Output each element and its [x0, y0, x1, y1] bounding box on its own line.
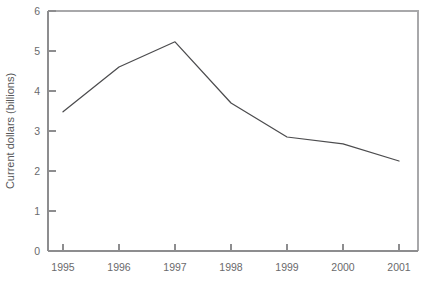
x-tick-label-1998: 1998	[219, 261, 243, 273]
y-axis-label: Current dollars (billions)	[4, 73, 16, 189]
data-series-line	[63, 42, 399, 161]
y-axis-ticks	[48, 11, 56, 211]
x-axis-ticks	[63, 244, 399, 251]
x-axis-tick-labels: 1995 1996 1997 1998 1999 2000 2001	[51, 261, 411, 273]
y-tick-label-5: 5	[34, 45, 40, 57]
x-tick-label-1995: 1995	[51, 261, 75, 273]
line-chart: 6 5 4 3 2 1 0 1995 1996 1997 1998 1999 2…	[0, 0, 430, 284]
plot-frame	[48, 11, 418, 251]
x-tick-label-1997: 1997	[163, 261, 187, 273]
y-tick-label-3: 3	[34, 125, 40, 137]
y-axis-tick-labels: 6 5 4 3 2 1 0	[34, 5, 40, 257]
y-tick-label-4: 4	[34, 85, 40, 97]
x-tick-label-1996: 1996	[107, 261, 131, 273]
y-tick-label-0: 0	[34, 245, 40, 257]
x-tick-label-2001: 2001	[387, 261, 411, 273]
y-tick-label-1: 1	[34, 205, 40, 217]
x-tick-label-2000: 2000	[331, 261, 355, 273]
chart-canvas: 6 5 4 3 2 1 0 1995 1996 1997 1998 1999 2…	[0, 0, 430, 284]
y-tick-label-6: 6	[34, 5, 40, 17]
y-tick-label-2: 2	[34, 165, 40, 177]
x-tick-label-1999: 1999	[275, 261, 299, 273]
